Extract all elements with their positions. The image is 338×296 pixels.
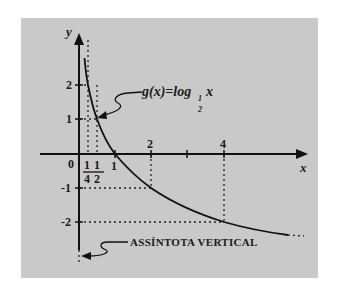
function-base-den: 2 bbox=[197, 105, 202, 114]
x-tick-0: 0 bbox=[68, 157, 74, 171]
function-arg: x bbox=[205, 84, 213, 99]
x-tick-2: 2 bbox=[147, 137, 153, 151]
x-tick-4: 4 bbox=[220, 137, 226, 151]
y-tick-1: 1 bbox=[66, 112, 72, 126]
y-axis-label: y bbox=[64, 24, 72, 39]
y-tick-neg2: -2 bbox=[61, 215, 71, 229]
function-label: g(x)=log bbox=[141, 84, 191, 100]
asymptote-label: ASSÍNTOTA VERTICAL bbox=[130, 236, 258, 248]
x-tick-quarter-num: 1 bbox=[84, 158, 90, 172]
y-tick-2: 2 bbox=[66, 78, 72, 92]
log-function-chart: y x 0 1 2 4 1 4 1 2 2 1 -1 -2 g(x)=log 1… bbox=[0, 0, 338, 296]
x-tick-half-den: 2 bbox=[94, 172, 100, 186]
y-tick-neg1: -1 bbox=[61, 181, 71, 195]
x-tick-quarter-den: 4 bbox=[84, 172, 90, 186]
x-axis-label: x bbox=[299, 160, 307, 175]
x-tick-half-num: 1 bbox=[94, 158, 100, 172]
x-tick-1: 1 bbox=[111, 159, 117, 173]
function-base-num: 1 bbox=[198, 94, 202, 103]
